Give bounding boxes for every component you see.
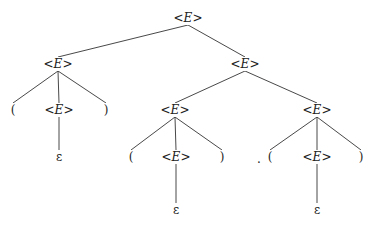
nonterminal-node: <E> xyxy=(160,103,191,117)
nonterminal-node: <E> xyxy=(230,57,261,71)
epsilon-node: ε xyxy=(55,150,63,164)
nonterminal-node: <E> xyxy=(302,103,333,117)
tree-edge xyxy=(58,71,106,103)
parse-tree-diagram: <E><E><E>(<E>)ε<E><E>(<E>)ε(<E>)ε. xyxy=(0,0,376,225)
nonterminal-node: <E> xyxy=(173,11,204,25)
nonterminal-node: <E> xyxy=(44,103,75,117)
tree-edge xyxy=(58,25,188,57)
terminal-node: ( xyxy=(128,150,135,164)
terminal-node: ) xyxy=(358,150,365,164)
nonterminal-node: <E> xyxy=(161,150,192,164)
tree-edge xyxy=(317,117,361,150)
epsilon-node: ε xyxy=(172,203,180,217)
tree-edge xyxy=(175,117,222,150)
nonterminal-node: <E> xyxy=(43,57,74,71)
tree-edge xyxy=(175,117,176,150)
epsilon-node: ε xyxy=(313,203,321,217)
tree-edge xyxy=(131,117,175,150)
terminal-node: . xyxy=(256,152,262,166)
terminal-node: ( xyxy=(267,150,274,164)
tree-edge xyxy=(188,25,245,57)
tree-edge xyxy=(270,117,317,150)
terminal-node: ) xyxy=(219,150,226,164)
tree-edge xyxy=(175,71,245,103)
terminal-node: ) xyxy=(103,103,110,117)
tree-edge xyxy=(58,71,59,103)
terminal-node: ( xyxy=(10,103,17,117)
nonterminal-node: <E> xyxy=(302,150,333,164)
tree-edge xyxy=(13,71,58,103)
tree-edge xyxy=(245,71,317,103)
